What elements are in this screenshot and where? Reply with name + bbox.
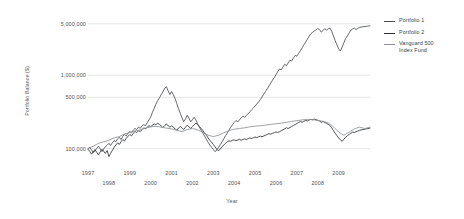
legend-label-vanguard-500: Vanguard 500 Index Fund [399, 40, 434, 53]
y-tick-label: 500,000 [28, 94, 86, 100]
x-tick-label: 2007 [291, 170, 304, 176]
legend-swatch-portfolio-2 [384, 33, 395, 34]
x-tick-label: 2006 [270, 180, 283, 186]
series-lines [88, 26, 370, 157]
legend-label-portfolio-1: Portfolio 1 [399, 17, 424, 24]
legend-item-portfolio-2[interactable]: Portfolio 2 [384, 29, 464, 41]
y-tick-label: 5,000,000 [28, 21, 86, 27]
x-tick-label: 2003 [207, 170, 220, 176]
x-tick-label: 1998 [103, 180, 116, 186]
legend-swatch-vanguard-500 [384, 44, 395, 45]
series-line [88, 119, 370, 156]
x-tick-label: 2000 [144, 180, 157, 186]
y-tick-label: 100,000 [28, 146, 86, 152]
x-tick-label: 2009 [332, 170, 345, 176]
x-tick-label: 2001 [165, 170, 178, 176]
x-tick-label: 2004 [228, 180, 241, 186]
legend-item-vanguard-500[interactable]: Vanguard 500 Index Fund [384, 40, 464, 52]
y-axis-tick-labels: 5,000,0001,000,000500,000100,000 [28, 0, 86, 219]
x-tick-label: 1997 [82, 170, 95, 176]
x-tick-label: 2008 [311, 180, 324, 186]
chart-legend: Portfolio 1 Portfolio 2 Vanguard 500 Ind… [384, 17, 464, 52]
portfolio-balance-chart: Portfolio Balance ($) 5,000,0001,000,000… [0, 0, 464, 219]
x-axis-title: Year [0, 198, 464, 204]
x-tick-label: 2002 [186, 180, 199, 186]
legend-label-portfolio-2: Portfolio 2 [399, 29, 424, 36]
legend-swatch-portfolio-1 [384, 21, 395, 22]
series-line [88, 26, 370, 153]
x-tick-label: 1999 [123, 170, 136, 176]
x-tick-label: 2005 [249, 170, 262, 176]
y-tick-label: 1,000,000 [28, 72, 86, 78]
legend-item-portfolio-1[interactable]: Portfolio 1 [384, 17, 464, 29]
